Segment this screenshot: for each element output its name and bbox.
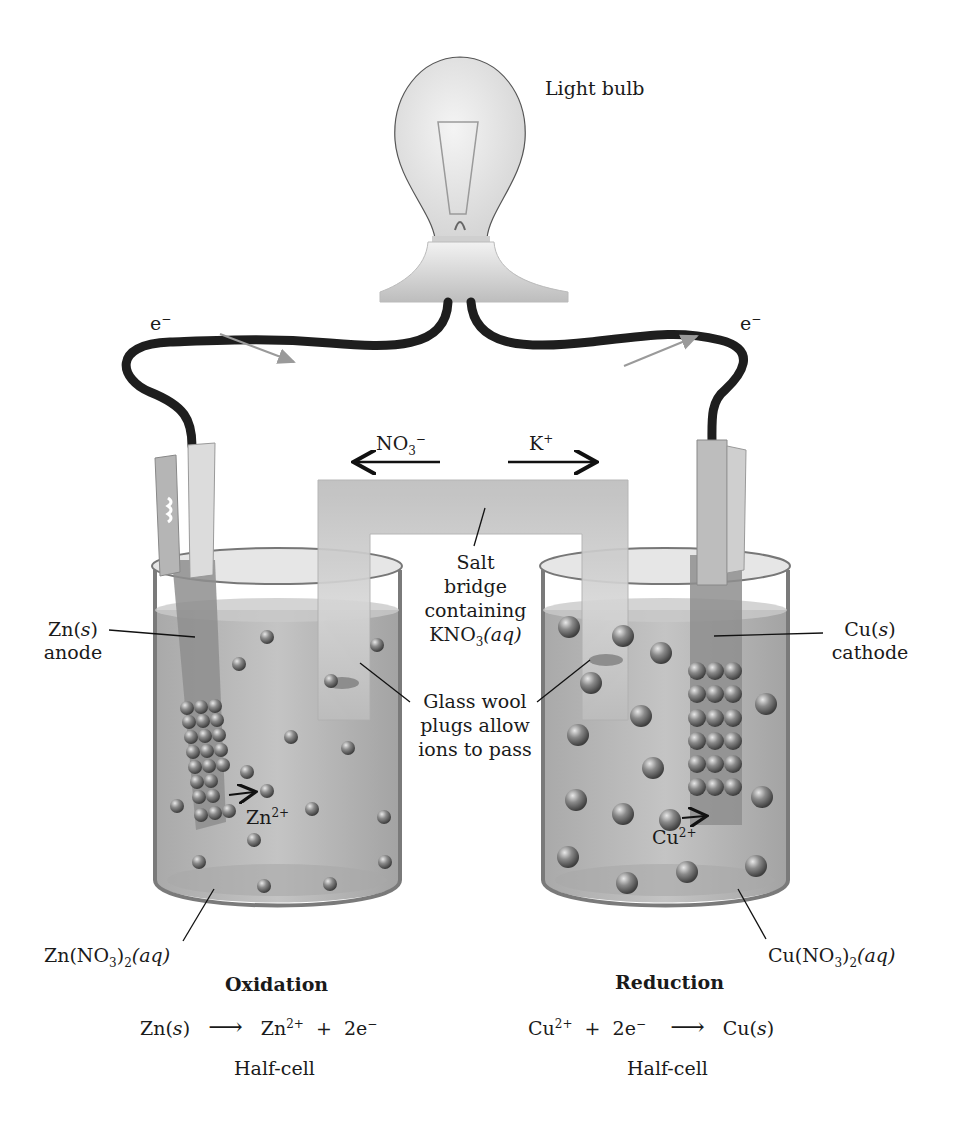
oxidation-half-cell-caption: Half-cell	[234, 1057, 315, 1080]
glass-wool-plug-right	[589, 654, 623, 666]
electron-label-left: e−	[150, 312, 171, 335]
alligator-clip-right	[697, 440, 746, 585]
oxidation-heading: Oxidation	[225, 973, 328, 996]
wire-right	[471, 302, 743, 446]
copper-ion-label: Cu2+	[652, 826, 696, 849]
zinc-ion-label: Zn2+	[246, 806, 289, 829]
glass-wool-label: Glass wool plugs allow ions to pass	[405, 689, 545, 761]
reduction-half-cell-caption: Half-cell	[627, 1057, 708, 1080]
copper-nitrate-solution-label: Cu(NO3)2(aq)	[768, 944, 895, 967]
light-bulb-icon	[380, 57, 568, 302]
oxidation-equation: Zn(s) ⟶ Zn2+ + 2e−	[140, 1013, 377, 1041]
zinc-nitrate-solution-label: Zn(NO3)2(aq)	[44, 944, 170, 967]
wire-left	[126, 302, 448, 446]
nitrate-ion-label: NO3−	[376, 432, 426, 455]
salt-bridge-label: Salt bridge containing KNO3(aq)	[408, 550, 543, 646]
copper-cathode-label: Cu(s) cathode	[830, 618, 910, 664]
reduction-heading: Reduction	[615, 971, 724, 994]
light-bulb-label: Light bulb	[545, 77, 644, 100]
reduction-equation: Cu2+ + 2e− ⟶ Cu(s)	[528, 1013, 774, 1041]
potassium-ion-label: K+	[529, 432, 553, 455]
zinc-anode-label: Zn(s) anode	[38, 618, 108, 664]
electron-label-right: e−	[740, 312, 761, 335]
